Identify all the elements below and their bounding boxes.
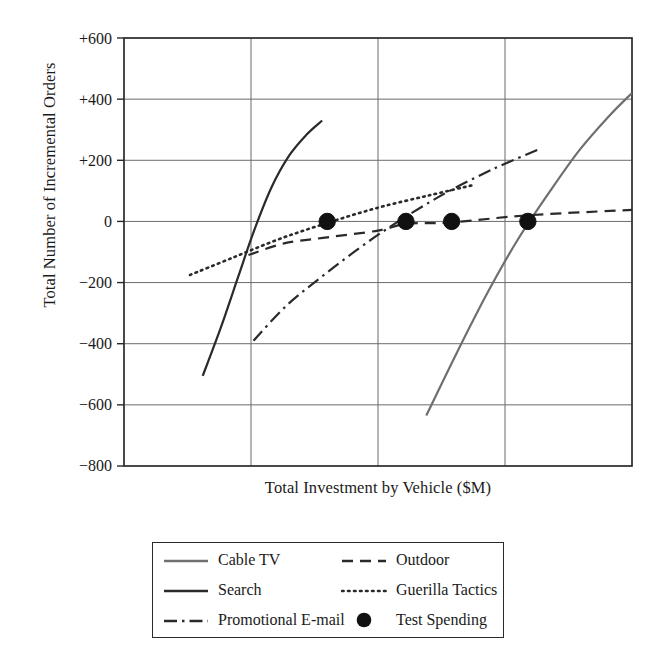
- legend-swatch-filled-circle-icon: [341, 612, 387, 628]
- series-line-promotional-e-mail: [254, 150, 538, 341]
- series-line-cable-tv: [426, 93, 632, 416]
- test-spending-marker: [443, 213, 459, 229]
- legend-item-guerilla-tactics[interactable]: Guerilla Tactics: [335, 582, 503, 598]
- test-spending-marker: [319, 213, 335, 229]
- data-series: [190, 93, 632, 416]
- x-axis-title: Total Investment by Vehicle ($M): [124, 478, 632, 498]
- legend-label: Search: [218, 582, 262, 598]
- legend-label: Promotional E-mail: [218, 612, 345, 628]
- legend-item-cable-tv[interactable]: Cable TV: [153, 552, 335, 568]
- legend-item-outdoor[interactable]: Outdoor: [335, 552, 503, 568]
- chart-figure: Total Number of Incremental Orders +600 …: [0, 0, 654, 662]
- legend-swatch-dashed-icon: [341, 553, 387, 567]
- legend-label: Outdoor: [396, 552, 449, 568]
- legend-item-promotional-email[interactable]: Promotional E-mail: [153, 612, 335, 628]
- test-spending-marker: [398, 213, 414, 229]
- legend-item-search[interactable]: Search: [153, 582, 335, 598]
- grid-lines: [124, 38, 632, 466]
- legend-swatch-solid-gray-icon: [163, 553, 209, 567]
- legend-label: Guerilla Tactics: [396, 582, 497, 598]
- legend-swatch-dotted-icon: [341, 583, 387, 597]
- chart-legend: Cable TV Outdoor Search Guerilla Tactics…: [152, 542, 504, 638]
- legend-label: Cable TV: [218, 552, 280, 568]
- series-line-guerilla-tactics: [190, 185, 472, 275]
- legend-label: Test Spending: [396, 612, 487, 628]
- series-line-search: [203, 121, 322, 376]
- axis-ticks: [117, 38, 124, 466]
- legend-swatch-dashdot-icon: [163, 613, 209, 627]
- series-line-outdoor: [248, 210, 632, 255]
- test-spending-marker: [520, 213, 536, 229]
- legend-item-test-spending[interactable]: Test Spending: [335, 612, 503, 628]
- legend-swatch-solid-black-icon: [163, 583, 209, 597]
